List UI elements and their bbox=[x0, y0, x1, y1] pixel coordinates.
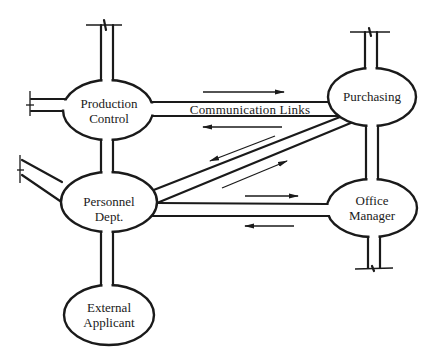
node-label-line1: Office bbox=[330, 193, 414, 208]
node-label-line1: External bbox=[68, 300, 150, 315]
node-label-line2: Control bbox=[68, 111, 150, 126]
node-label-line2: Applicant bbox=[68, 315, 150, 330]
node-personnel-dept: Personnel Dept. bbox=[68, 194, 150, 224]
node-label-line2: Manager bbox=[330, 208, 414, 223]
node-purchasing: Purchasing bbox=[330, 89, 414, 104]
node-production-control: Production Control bbox=[68, 96, 150, 126]
node-label-line2: Dept. bbox=[68, 209, 150, 224]
node-label-line1: Production bbox=[68, 96, 150, 111]
node-label-line1: Purchasing bbox=[330, 89, 414, 104]
communication-links-label: Communication Links bbox=[185, 102, 315, 117]
channel-pipes bbox=[17, 20, 393, 287]
communication-diagram bbox=[0, 0, 441, 352]
node-office-manager: Office Manager bbox=[330, 193, 414, 223]
arrow-up-right-icon bbox=[222, 161, 287, 188]
node-label-line1: Personnel bbox=[68, 194, 150, 209]
node-external-applicant: External Applicant bbox=[68, 300, 150, 330]
